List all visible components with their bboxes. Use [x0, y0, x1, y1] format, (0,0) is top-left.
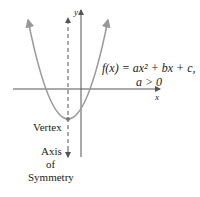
- equation-label: f(x) = ax² + bx + c,: [102, 62, 196, 74]
- axis-label-line1: Axis: [41, 145, 62, 157]
- vertex-point: [66, 117, 70, 121]
- axis-label-line2: of: [46, 158, 55, 170]
- vertex-label: Vertex: [33, 121, 62, 133]
- axis-label-line3: Symmetry: [28, 171, 74, 183]
- x-axis-label: x: [155, 91, 159, 103]
- parabola-diagram: [0, 0, 200, 197]
- condition-label: a > 0: [136, 76, 162, 88]
- y-axis-label: y: [74, 6, 78, 18]
